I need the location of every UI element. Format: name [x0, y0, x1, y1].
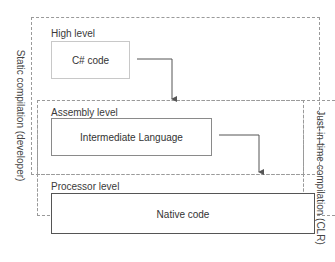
- arrow-csharp-to-il: [137, 59, 172, 99]
- static-compilation-label: Static compilation (developer): [15, 41, 26, 191]
- arrow-il-to-native: [219, 135, 259, 172]
- jit-compilation-label: Just-in-time compilation (CLR): [315, 103, 326, 253]
